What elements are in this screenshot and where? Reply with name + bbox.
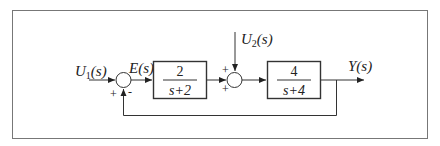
- error-signal-label: E(s): [128, 60, 154, 77]
- u2-label: U2(s): [241, 31, 273, 49]
- block-1-numerator: 2: [177, 64, 184, 79]
- sum2-top-plus-sign: +: [222, 63, 229, 77]
- block-diagram: U1(s) + - E(s) 2 s+2 U2(s) + + 4 s+4 Y(s…: [0, 0, 440, 146]
- u1-label: U1(s): [75, 63, 107, 81]
- sum2-left-plus-sign: +: [222, 82, 229, 96]
- sum1-minus-sign: -: [128, 85, 132, 99]
- block-1-denominator: s+2: [169, 83, 191, 98]
- sum1-plus-sign: +: [110, 87, 117, 101]
- summing-junction-2: [227, 73, 242, 88]
- output-label: Y(s): [348, 58, 372, 75]
- block-2-numerator: 4: [291, 64, 298, 79]
- block-2-denominator: s+4: [283, 83, 305, 98]
